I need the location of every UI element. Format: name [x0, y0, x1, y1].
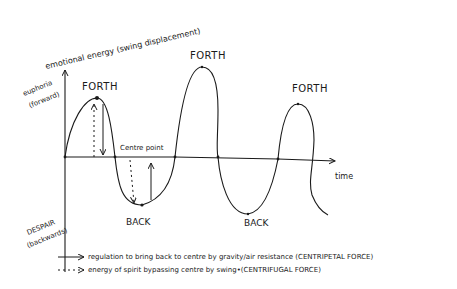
forth-label: FORTH	[190, 50, 226, 61]
zero-crossing	[174, 156, 177, 159]
x-axis	[65, 157, 335, 161]
time-label: time	[335, 172, 353, 181]
legend-centripetal-text: regulation to bring back to centre by gr…	[88, 253, 373, 261]
zero-crossing	[217, 156, 220, 159]
legend-centrifugal-text: energy of spirit bypassing centre by swi…	[88, 266, 321, 274]
back-label: BACK	[244, 218, 269, 228]
forth-label: FORTH	[82, 81, 118, 92]
trough-point	[247, 213, 249, 215]
trough-point	[140, 203, 143, 206]
centre-point-label: Centre point	[120, 144, 164, 152]
back-label: BACK	[126, 217, 151, 227]
zero-crossing	[277, 158, 280, 161]
swing-diagram: emotional energy (swing displacement) eu…	[0, 0, 457, 289]
peak-point	[201, 66, 203, 68]
y-axis-title: emotional energy (swing displacement)	[44, 26, 201, 70]
zero-crossing	[64, 156, 67, 159]
zero-crossing	[114, 156, 117, 159]
centrifugal-arrow	[130, 160, 134, 203]
peak-point	[95, 96, 99, 100]
forth-label: FORTH	[292, 83, 328, 94]
peak-point	[297, 103, 299, 105]
